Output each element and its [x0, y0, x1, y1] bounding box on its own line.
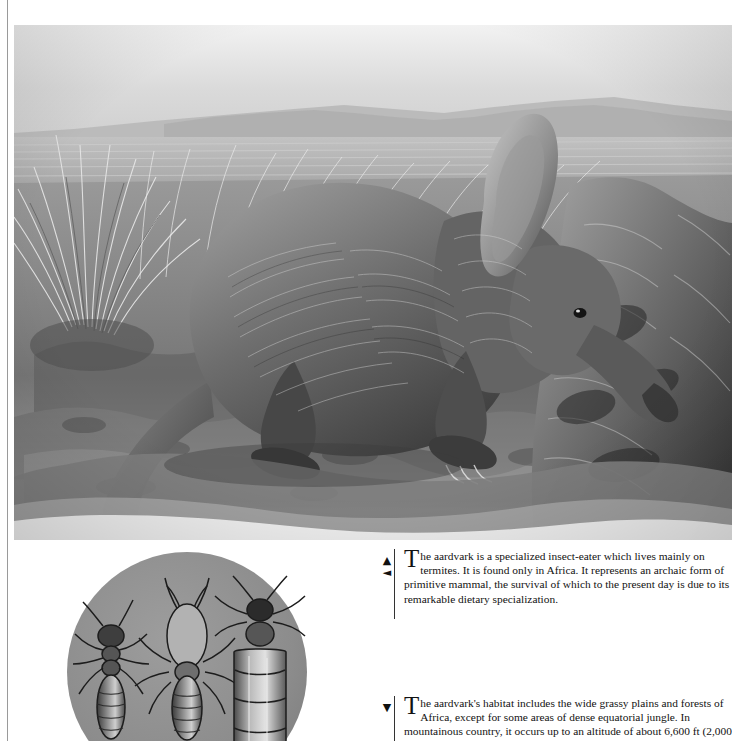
caption-primary-text: he aardvark is a specialized insect-eate… [404, 550, 729, 605]
triangle-left-icon: ◄ [383, 567, 391, 579]
caption-primary-markers: ▲ ◄ [380, 549, 394, 579]
termite-inset-svg [67, 552, 307, 741]
caption-block-secondary: ▼ The aardvark's habitat includes the wi… [380, 696, 732, 741]
soldier-head [167, 604, 207, 668]
caption-secondary-text: he aardvark's habitat includes the wide … [404, 697, 732, 741]
caption-primary-dropcap: T [404, 548, 420, 569]
worker-head [98, 625, 124, 647]
caption-secondary-markers: ▼ [380, 696, 394, 714]
queen-thorax [246, 622, 274, 646]
page-left-rule [7, 0, 8, 741]
caption-block-primary: ▲ ◄ The aardvark is a specialized insect… [380, 549, 732, 619]
triangle-down-icon: ▼ [383, 702, 391, 714]
aardvark-illustration-svg [14, 25, 732, 540]
caption-secondary-rule [394, 696, 395, 741]
encyclopedia-page: ▲ ◄ The aardvark is a specialized insect… [0, 0, 732, 741]
termite-inset [67, 552, 307, 741]
aardvark-illustration-plate [14, 25, 732, 540]
queen-abdomen [234, 649, 286, 741]
queen-head [247, 599, 273, 621]
caption-secondary-dropcap: T [404, 696, 420, 716]
caption-primary-rule [394, 549, 395, 619]
plate-vignette [14, 25, 732, 540]
caption-secondary-body: The aardvark's habitat includes the wide… [404, 696, 732, 741]
caption-primary-body: The aardvark is a specialized insect-eat… [404, 549, 732, 606]
